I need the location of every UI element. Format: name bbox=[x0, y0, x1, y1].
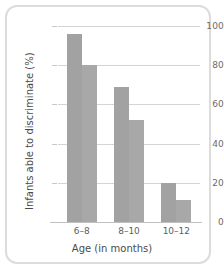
y-tick-label: 80 bbox=[180, 60, 224, 70]
gridline bbox=[58, 26, 200, 27]
y-tick-mark bbox=[52, 144, 57, 145]
x-tick-label: 6–8 bbox=[74, 226, 90, 236]
y-tick-mark bbox=[52, 65, 57, 66]
y-tick-mark bbox=[52, 104, 57, 105]
y-tick-label: 40 bbox=[180, 139, 224, 149]
y-axis-title: Infants able to discriminate (%) bbox=[24, 52, 35, 210]
y-tick-label: 20 bbox=[180, 178, 224, 188]
y-tick-label: 100 bbox=[180, 21, 224, 31]
x-axis-title: Age (in months) bbox=[0, 243, 224, 254]
bar bbox=[161, 183, 176, 222]
y-tick-mark bbox=[52, 183, 57, 184]
bar bbox=[67, 34, 82, 222]
y-tick-label: 60 bbox=[180, 99, 224, 109]
bar bbox=[129, 120, 144, 222]
bar bbox=[176, 200, 191, 222]
bar bbox=[114, 87, 129, 222]
x-axis-line bbox=[50, 222, 202, 223]
x-tick-label: 10–12 bbox=[163, 226, 190, 236]
y-tick-mark bbox=[52, 26, 57, 27]
bar-chart: 020406080100 6–88–1010–12 Infants able t… bbox=[0, 0, 224, 277]
bar bbox=[82, 65, 97, 222]
x-tick-label: 8–10 bbox=[118, 226, 140, 236]
